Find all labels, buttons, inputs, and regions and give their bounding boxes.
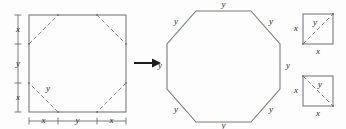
square-with-corner-cuts: y x y x x y x bbox=[15, 14, 127, 125]
corner-square-top: x x y bbox=[293, 13, 334, 56]
corner-cut-top-left bbox=[29, 15, 58, 44]
octagon-side-label-top: y bbox=[221, 0, 226, 9]
geometry-figure: y x y x x y x bbox=[0, 0, 346, 129]
bottom-ruler-segment-x-right: x bbox=[109, 115, 114, 125]
left-ruler-segment-y: y bbox=[15, 58, 20, 68]
bottom-ruler-segment-x-left: x bbox=[41, 115, 46, 125]
corner-square-bottom-diagonal-label: y bbox=[317, 79, 322, 89]
corner-square-bottom: x x y bbox=[293, 75, 334, 118]
octagon-side-label-bottom: y bbox=[221, 120, 226, 129]
left-ruler-segment-x-bottom: x bbox=[15, 92, 20, 102]
bottom-ruler: x y x bbox=[29, 115, 126, 125]
corner-square-top-left-label: x bbox=[293, 23, 298, 33]
octagon-side-label-top-right: y bbox=[268, 16, 273, 26]
octagon-outline bbox=[167, 11, 280, 122]
octagon-side-label-bottom-right: y bbox=[268, 104, 273, 114]
left-ruler-segment-x-top: x bbox=[15, 24, 20, 34]
corner-square-top-diagonal-label: y bbox=[312, 17, 317, 27]
octagon-side-label-bottom-left: y bbox=[173, 104, 178, 114]
octagon-side-label-top-left: y bbox=[173, 16, 178, 26]
transformation-arrow bbox=[134, 59, 161, 68]
corner-square-top-diagonal bbox=[303, 14, 333, 44]
octagon-side-label-left: y bbox=[157, 60, 162, 70]
corner-square-top-bottom-label: x bbox=[315, 46, 320, 56]
corner-square-bottom-bottom-label: x bbox=[315, 108, 320, 118]
regular-octagon: y y y y y y y y bbox=[157, 0, 290, 129]
octagon-side-label-right: y bbox=[285, 60, 290, 70]
corner-square-bottom-left-label: x bbox=[293, 85, 298, 95]
bottom-ruler-segment-y: y bbox=[75, 115, 80, 125]
corner-cut-bottom-right bbox=[97, 83, 126, 112]
corner-cut-top-right bbox=[97, 15, 126, 44]
square-inner-label: y bbox=[45, 83, 50, 93]
octagon-vertex-dots bbox=[28, 14, 127, 113]
left-ruler: x y x bbox=[15, 15, 22, 112]
corner-cut-bottom-left bbox=[29, 83, 58, 112]
